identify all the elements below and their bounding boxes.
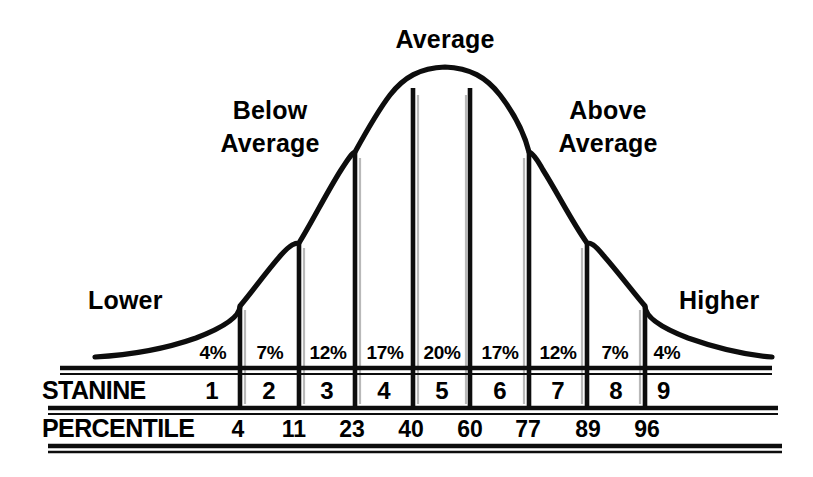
percentile-value-11: 11 bbox=[282, 418, 306, 441]
label-average: Average bbox=[395, 27, 494, 53]
percentile-value-89: 89 bbox=[575, 418, 601, 441]
percentile-value-77: 77 bbox=[515, 418, 541, 441]
stanine-value-8: 8 bbox=[609, 379, 622, 403]
percent-label-2: 7% bbox=[257, 343, 284, 362]
percent-label-3: 12% bbox=[309, 343, 346, 362]
stanine-value-4: 4 bbox=[377, 379, 390, 403]
percentile-value-96: 96 bbox=[634, 418, 660, 441]
percentile-value-23: 23 bbox=[339, 418, 365, 441]
stanine-value-5: 5 bbox=[435, 379, 448, 403]
bell-curve-graphic bbox=[0, 0, 813, 477]
percent-label-6: 17% bbox=[481, 343, 518, 362]
stanine-value-7: 7 bbox=[551, 379, 564, 403]
stanine-value-9: 9 bbox=[657, 379, 670, 403]
stanine-distribution-chart: Average Below Average Above Average Lowe… bbox=[0, 0, 813, 477]
stanine-row-title: STANINE bbox=[42, 378, 146, 404]
label-higher: Higher bbox=[679, 288, 759, 314]
percent-label-4: 17% bbox=[366, 343, 403, 362]
percent-label-1: 4% bbox=[200, 343, 227, 362]
percent-label-8: 7% bbox=[602, 343, 629, 362]
label-lower: Lower bbox=[88, 288, 163, 314]
percentile-value-40: 40 bbox=[398, 418, 424, 441]
label-below-average-line2: Average bbox=[220, 131, 319, 157]
bell-curve-path bbox=[95, 67, 772, 357]
label-above-average-line2: Average bbox=[558, 131, 657, 157]
label-below-average-line1: Below bbox=[233, 98, 308, 124]
stanine-value-6: 6 bbox=[493, 379, 506, 403]
percentile-row-title: PERCENTILE bbox=[42, 416, 194, 442]
stanine-value-2: 2 bbox=[262, 379, 275, 403]
stanine-value-1: 1 bbox=[205, 379, 218, 403]
stanine-value-3: 3 bbox=[320, 379, 333, 403]
percent-label-5: 20% bbox=[423, 343, 460, 362]
label-above-average-line1: Above bbox=[569, 98, 646, 124]
percentile-value-4: 4 bbox=[232, 418, 245, 441]
percentile-value-60: 60 bbox=[457, 418, 483, 441]
percent-label-7: 12% bbox=[539, 343, 576, 362]
percent-label-9: 4% bbox=[654, 343, 681, 362]
